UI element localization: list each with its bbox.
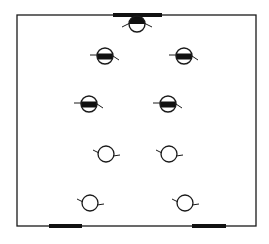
lighting-floor-plan <box>0 0 269 244</box>
room-outline <box>17 15 256 226</box>
fixture-r1-right-icon <box>169 48 198 64</box>
fixture-r3-right-icon <box>156 146 183 162</box>
light-fixtures <box>74 16 199 211</box>
fixture-r1-left-icon <box>90 48 119 64</box>
fixture-r4-left-icon <box>77 195 104 211</box>
fixture-r4-right-icon <box>172 195 199 211</box>
door-openings <box>49 15 226 226</box>
fixture-r2-right-icon <box>153 96 182 112</box>
fixture-r3-left-icon <box>93 146 120 162</box>
wall-fixture-top-icon <box>122 16 152 32</box>
floor-plan-svg <box>0 0 269 244</box>
fixture-r2-left-icon <box>74 96 103 112</box>
